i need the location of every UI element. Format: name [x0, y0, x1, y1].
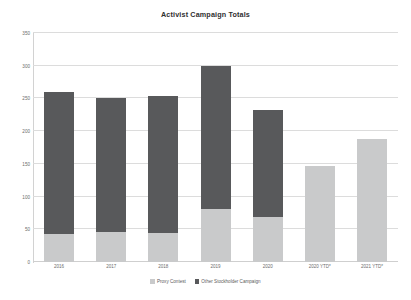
legend-label: Other Stockholder Campaign	[201, 279, 260, 284]
y-axis-tick-label: 50	[4, 227, 30, 232]
legend-label: Proxy Contest	[157, 279, 186, 284]
y-axis-tick-labels: 050100150200250300350	[0, 33, 30, 263]
x-axis-tick-labels: 201620172018201920202020 YTD*2021 YTD*	[33, 264, 398, 276]
bar[interactable]	[253, 33, 283, 262]
bar[interactable]	[148, 33, 178, 262]
x-axis-tick-label: 2020	[263, 264, 273, 269]
bar[interactable]	[44, 33, 74, 262]
chart-container: Activist Campaign Totals 050100150200250…	[0, 0, 411, 300]
bar-segment[interactable]	[148, 96, 178, 233]
x-axis-tick-label: 2021 YTD*	[361, 264, 383, 269]
bar-segment[interactable]	[44, 234, 74, 262]
bar-segment[interactable]	[44, 92, 74, 234]
x-axis-tick-label: 2017	[106, 264, 116, 269]
bar-segment[interactable]	[357, 139, 387, 262]
bar[interactable]	[96, 33, 126, 262]
legend-swatch-icon	[150, 279, 155, 284]
x-axis-tick-label: 2016	[54, 264, 64, 269]
chart-legend: Proxy ContestOther Stockholder Campaign	[0, 279, 411, 284]
bar[interactable]	[201, 33, 231, 262]
y-axis-tick-label: 100	[4, 194, 30, 199]
bar-segment[interactable]	[201, 209, 231, 262]
y-axis-tick-label: 250	[4, 96, 30, 101]
legend-swatch-icon	[195, 279, 200, 284]
y-axis-tick-label: 0	[4, 260, 30, 265]
legend-item[interactable]: Proxy Contest	[150, 279, 185, 284]
bar[interactable]	[305, 33, 335, 262]
bar[interactable]	[357, 33, 387, 262]
plot-area	[33, 33, 398, 262]
y-axis-tick-label: 300	[4, 63, 30, 68]
x-axis-tick-label: 2020 YTD*	[309, 264, 331, 269]
y-axis-tick-label: 150	[4, 161, 30, 166]
bar-segment[interactable]	[253, 110, 283, 217]
bar-segment[interactable]	[96, 232, 126, 262]
x-axis-tick-label: 2019	[210, 264, 220, 269]
y-axis-tick-label: 200	[4, 129, 30, 134]
chart-title: Activist Campaign Totals	[0, 10, 411, 19]
bar-segment[interactable]	[148, 233, 178, 262]
bar-segment[interactable]	[305, 166, 335, 262]
legend-item[interactable]: Other Stockholder Campaign	[195, 279, 261, 284]
bar-segment[interactable]	[201, 66, 231, 209]
bar-segment[interactable]	[253, 217, 283, 262]
bar-segment[interactable]	[96, 98, 126, 231]
y-axis-tick-label: 350	[4, 31, 30, 36]
x-axis-tick-label: 2018	[158, 264, 168, 269]
